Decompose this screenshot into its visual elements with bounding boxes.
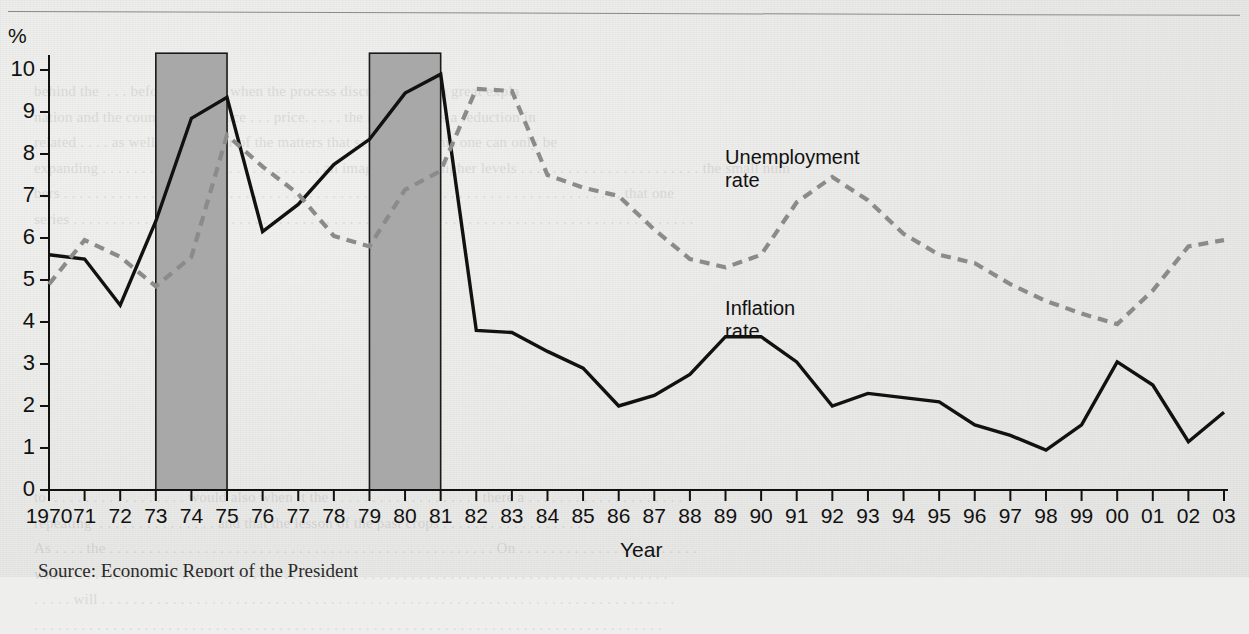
x-tick-label-1981: 81 xyxy=(424,504,458,528)
x-tick-label-1973: 73 xyxy=(139,504,173,528)
x-tick-label-1983: 83 xyxy=(495,504,529,528)
x-tick-label-1979: 79 xyxy=(352,504,386,528)
y-tick-label-1: 1 xyxy=(0,434,35,460)
y-tick-label-6: 6 xyxy=(0,224,35,250)
x-tick-label-1977: 77 xyxy=(281,504,315,528)
x-tick-label-1985: 85 xyxy=(566,504,600,528)
x-tick-label-2002: 02 xyxy=(1171,504,1205,528)
y-tick-label-2: 2 xyxy=(0,392,35,418)
x-tick-label-1994: 94 xyxy=(887,504,921,528)
y-tick-label-8: 8 xyxy=(0,140,35,166)
annotation-unemployment: Unemploymentrate xyxy=(725,146,860,192)
y-tick-label-4: 4 xyxy=(0,308,35,334)
x-tick-label-2001: 01 xyxy=(1136,504,1170,528)
y-tick-label-0: 0 xyxy=(0,476,35,502)
y-tick-label-9: 9 xyxy=(0,98,35,124)
x-tick-label-1986: 86 xyxy=(602,504,636,528)
x-tick-label-1972: 72 xyxy=(103,504,137,528)
x-tick-label-1997: 97 xyxy=(993,504,1027,528)
y-tick-label-10: 10 xyxy=(0,56,35,82)
annotation-inflation: Inflationrate xyxy=(725,297,795,343)
x-tick-label-2000: 00 xyxy=(1100,504,1134,528)
x-tick-label-1974: 74 xyxy=(174,504,208,528)
y-axis-unit-label: % xyxy=(8,24,27,48)
x-tick-label-1971: 71 xyxy=(68,504,102,528)
x-tick-label-1975: 75 xyxy=(210,504,244,528)
recession-band-1979-1981 xyxy=(369,53,440,490)
x-tick-label-1987: 87 xyxy=(637,504,671,528)
x-tick-label-1990: 90 xyxy=(744,504,778,528)
x-tick-label-1978: 78 xyxy=(317,504,351,528)
annotation-line-2: rate xyxy=(725,169,860,192)
x-tick-label-1993: 93 xyxy=(851,504,885,528)
x-tick-label-1980: 80 xyxy=(388,504,422,528)
source-note: Source: Economic Report of the President xyxy=(38,560,358,577)
x-tick-label-1992: 92 xyxy=(815,504,849,528)
annotation-line-1: Inflation xyxy=(725,297,795,320)
x-tick-label-1999: 99 xyxy=(1065,504,1099,528)
y-tick-label-7: 7 xyxy=(0,182,35,208)
x-tick-label-1984: 84 xyxy=(530,504,564,528)
x-axis-title: Year xyxy=(620,538,662,562)
x-tick-label-1976: 76 xyxy=(246,504,280,528)
x-tick-label-1998: 98 xyxy=(1029,504,1063,528)
annotation-line-1: Unemployment xyxy=(725,146,860,169)
x-tick-label-1982: 82 xyxy=(459,504,493,528)
y-tick-label-5: 5 xyxy=(0,266,35,292)
x-tick-label-2003: 03 xyxy=(1207,504,1241,528)
x-tick-label-1988: 88 xyxy=(673,504,707,528)
x-tick-label-1995: 95 xyxy=(922,504,956,528)
x-tick-label-1996: 96 xyxy=(958,504,992,528)
annotation-line-2: rate xyxy=(725,320,795,343)
y-tick-label-3: 3 xyxy=(0,350,35,376)
x-tick-label-1991: 91 xyxy=(780,504,814,528)
x-tick-label-1989: 89 xyxy=(709,504,743,528)
